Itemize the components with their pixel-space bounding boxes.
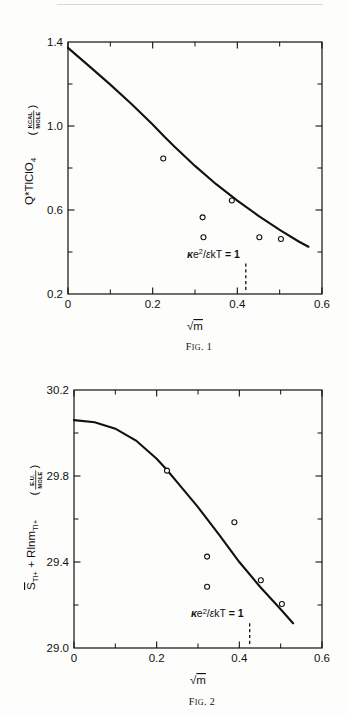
x-axis-variable: m bbox=[196, 674, 206, 686]
data-point bbox=[205, 554, 210, 559]
y-axis-title-text: Q*TlClO4 bbox=[23, 157, 38, 205]
data-point bbox=[258, 578, 263, 583]
figure-2: 00.20.40.629.029.429.830.2κe2/εkT = 1√mF… bbox=[0, 360, 349, 715]
figure-2-plot: 00.20.40.629.029.429.830.2κe2/εkT = 1√mF… bbox=[0, 360, 349, 715]
x-axis-variable: m bbox=[193, 320, 203, 332]
data-point bbox=[205, 584, 210, 589]
data-point bbox=[165, 468, 170, 473]
x-axis-title: √m bbox=[190, 674, 206, 686]
x-axis-title: √m bbox=[187, 320, 203, 332]
close-paren: ) bbox=[28, 465, 40, 469]
figure-caption: FIG. 1 bbox=[186, 341, 212, 352]
data-point bbox=[232, 520, 237, 525]
y-axis-title: STl+ + RlnmTl+ bbox=[25, 519, 40, 590]
annotation-label: κe2/εkT = 1 bbox=[187, 247, 240, 259]
x-tick-label: 0.6 bbox=[314, 298, 330, 310]
y-tick-label: 1.0 bbox=[47, 120, 63, 132]
figure-caption-smallcaps: IG bbox=[192, 343, 201, 352]
data-point bbox=[279, 601, 284, 606]
x-tick-label: 0 bbox=[71, 652, 77, 664]
unit-numerator-eu: E.U. bbox=[29, 474, 35, 486]
data-point bbox=[278, 236, 283, 241]
figure-1: 00.20.40.60.20.61.01.4κe2/εkT = 1√mFIG. … bbox=[0, 0, 349, 360]
x-tick-label: 0.4 bbox=[229, 298, 246, 310]
annotation-equals: = 1 bbox=[225, 248, 240, 260]
unit-denominator-mole: MOLE bbox=[37, 471, 43, 488]
y-tick-label: 29.8 bbox=[47, 470, 69, 482]
x-tick-label: 0.2 bbox=[149, 652, 165, 664]
epsilon-symbol: ε bbox=[206, 248, 211, 260]
y-axis-title-text: STl+ + RlnmTl+ bbox=[25, 519, 40, 590]
y-axis-subscript-4: 4 bbox=[29, 157, 38, 162]
x-tick-label: 0.4 bbox=[231, 652, 248, 664]
y-axis-title: Q*TlClO4 bbox=[23, 157, 38, 205]
x-tick-label: 0.2 bbox=[145, 298, 161, 310]
y-axis-subscript-tl-1: Tl+ bbox=[31, 571, 40, 583]
unit-fraction: (KCALMOLE) bbox=[26, 105, 41, 136]
data-point bbox=[201, 235, 206, 240]
data-point bbox=[257, 235, 262, 240]
y-axis-subscript-tl-2: Tl+ bbox=[31, 519, 40, 531]
y-tick-label: 29.4 bbox=[47, 556, 70, 568]
x-tick-label: 0 bbox=[65, 298, 71, 310]
open-paren: ( bbox=[26, 132, 38, 136]
open-paren: ( bbox=[28, 492, 40, 496]
unit-fraction: (E.U.MOLE) bbox=[28, 465, 43, 496]
y-tick-label: 0.6 bbox=[47, 204, 63, 216]
fitted-curve bbox=[68, 48, 308, 247]
annotation-label: κe2/εkT = 1 bbox=[191, 607, 244, 619]
annotation-equals: = 1 bbox=[229, 607, 244, 619]
y-tick-label: 29.0 bbox=[47, 642, 69, 654]
x-tick-label: 0.6 bbox=[314, 652, 330, 664]
close-paren: ) bbox=[26, 105, 38, 109]
kappa-symbol: κ bbox=[187, 248, 194, 260]
figure-page: 00.20.40.60.20.61.01.4κe2/εkT = 1√mFIG. … bbox=[0, 0, 349, 715]
unit-denominator-mole: MOLE bbox=[35, 111, 41, 128]
data-point bbox=[229, 198, 234, 203]
figure-caption-smallcaps: IG bbox=[195, 698, 204, 707]
figure-1-plot: 00.20.40.60.20.61.01.4κe2/εkT = 1√mFIG. … bbox=[0, 0, 349, 360]
fitted-curve bbox=[74, 420, 293, 623]
kappa-symbol: κ bbox=[191, 607, 198, 619]
y-axis-mid-term: + Rlnm bbox=[25, 531, 37, 571]
unit-numerator-kcal: KCAL bbox=[27, 111, 33, 128]
y-tick-label: 1.4 bbox=[47, 36, 64, 48]
data-point bbox=[200, 215, 205, 220]
figure-caption: FIG. 2 bbox=[189, 696, 215, 707]
data-point bbox=[161, 156, 166, 161]
y-tick-label: 0.2 bbox=[47, 288, 63, 300]
y-tick-label: 30.2 bbox=[47, 384, 69, 396]
epsilon-symbol: ε bbox=[210, 607, 215, 619]
